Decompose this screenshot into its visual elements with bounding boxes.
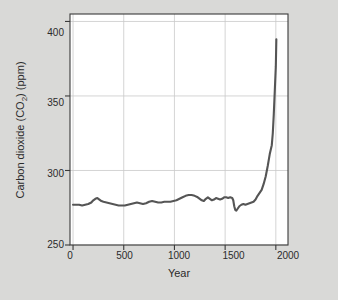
ytick-label-300: 300 (47, 168, 64, 179)
xtick-label-2000: 2000 (277, 250, 300, 261)
plot-area-background (70, 14, 288, 245)
ytick-label-400: 400 (47, 27, 64, 38)
co2-line-chart: 400 350 300 250 0 500 1000 1500 2000 Yea… (0, 0, 338, 300)
xtick-label-0: 0 (67, 250, 73, 261)
x-axis-title: Year (168, 267, 191, 279)
y-axis-title-part2: ) (ppm) (14, 61, 26, 96)
ytick-label-350: 350 (47, 97, 64, 108)
xtick-label-1500: 1500 (222, 250, 245, 261)
y-axis-title-part1: Carbon dioxide (CO (14, 101, 26, 199)
ytick-label-250: 250 (47, 239, 64, 250)
xtick-label-1000: 1000 (168, 250, 191, 261)
xtick-label-500: 500 (116, 250, 133, 261)
